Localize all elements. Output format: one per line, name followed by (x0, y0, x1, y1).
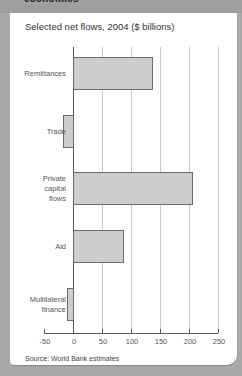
x-tick-label: 150 (155, 337, 168, 346)
x-axis (44, 333, 218, 334)
x-tick-mark (73, 329, 74, 333)
category-label: Trade (47, 127, 66, 137)
x-tick-mark (131, 329, 132, 333)
category-label: Remittances (24, 69, 66, 79)
bar-multilateral-finance (67, 288, 74, 321)
x-tick-mark (218, 329, 219, 333)
x-tick-label: 0 (72, 337, 76, 346)
category-label: Aid (55, 242, 66, 252)
x-tick-label: 200 (184, 337, 197, 346)
category-label: Private capital flows (43, 174, 66, 204)
header-strip: economies (0, 0, 242, 13)
bar-private-capital-flows (73, 172, 193, 205)
bar-remittances (73, 57, 153, 90)
category-label: Multilateral finance (30, 295, 66, 315)
x-tick-mark (102, 329, 103, 333)
x-tick-label: -50 (40, 337, 51, 346)
x-tick-mark (160, 329, 161, 333)
x-tick-label: 100 (126, 337, 139, 346)
x-tick-label: 50 (99, 337, 107, 346)
x-tick-mark (189, 329, 190, 333)
x-tick-label: 250 (213, 337, 226, 346)
source-note: Source: World Bank estimates (25, 355, 119, 362)
chart-title: Selected net flows, 2004 ($ billions) (25, 21, 174, 32)
header-title: economies (24, 0, 79, 4)
gridline (218, 47, 219, 333)
x-tick-mark (44, 329, 45, 333)
bar-aid (73, 230, 124, 263)
